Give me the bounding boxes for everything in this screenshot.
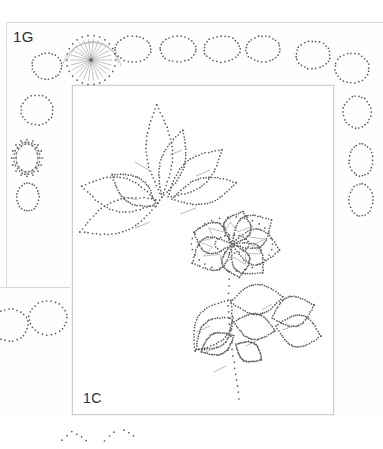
pattern-artwork [0,0,383,449]
scanned-page: 1G 1C [0,0,383,449]
